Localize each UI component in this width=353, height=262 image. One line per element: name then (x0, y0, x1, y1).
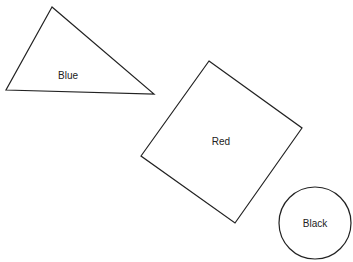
square-label: Red (212, 136, 230, 147)
triangle-shape (6, 7, 154, 94)
shapes-diagram: Blue Red Black (0, 0, 353, 262)
triangle-label: Blue (58, 70, 78, 81)
circle-label: Black (303, 218, 328, 229)
